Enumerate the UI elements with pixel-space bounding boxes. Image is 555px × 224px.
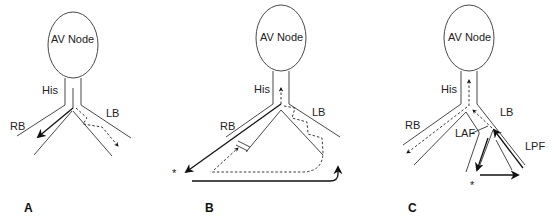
rb-retrograde-arrow: [214, 148, 238, 170]
his-label: His: [42, 84, 58, 96]
lb-label: LB: [312, 106, 325, 118]
his-label: His: [254, 83, 270, 95]
lb-label: LB: [106, 107, 119, 119]
star-marker: *: [470, 179, 475, 191]
rb-label: RB: [220, 120, 235, 132]
rb-conduction-arrow: [186, 104, 281, 172]
panel-label-a: A: [24, 201, 33, 215]
av-node-label: AV Node: [448, 31, 491, 43]
left-posterior-fascicle: [478, 130, 512, 170]
panel-label-b: B: [205, 201, 214, 215]
conduction-diagram: AV Node His RB LB A AV Node His RB LB: [0, 0, 555, 224]
left-bundle: [73, 105, 131, 156]
reentry-dashed-loop: [210, 106, 323, 172]
rb-label: RB: [10, 120, 25, 132]
his-label: His: [441, 83, 457, 95]
panel-c: AV Node His RB LAF LB LPF * C: [403, 5, 545, 215]
panel-a: AV Node His RB LB A: [10, 12, 131, 215]
star-marker: *: [172, 167, 177, 179]
rb-label: RB: [405, 119, 420, 131]
left-bundle: [281, 104, 340, 155]
av-node-label: AV Node: [51, 33, 94, 45]
panel-label-c: C: [408, 201, 417, 215]
av-node-shape: [48, 12, 98, 78]
lpf-label: LPF: [525, 140, 545, 152]
left-anterior-fascicle: [466, 112, 479, 172]
rb-conduction-arrow: [38, 108, 73, 137]
av-node-label: AV Node: [260, 31, 303, 43]
right-bundle: [17, 105, 73, 155]
reentry-solid-path: [192, 167, 338, 181]
panel-b: AV Node His RB LB * B: [172, 5, 340, 215]
lb-label: LB: [500, 106, 513, 118]
lpf-retrograde-arrow: [494, 130, 523, 168]
laf-antegrade-arrow: [477, 138, 488, 170]
